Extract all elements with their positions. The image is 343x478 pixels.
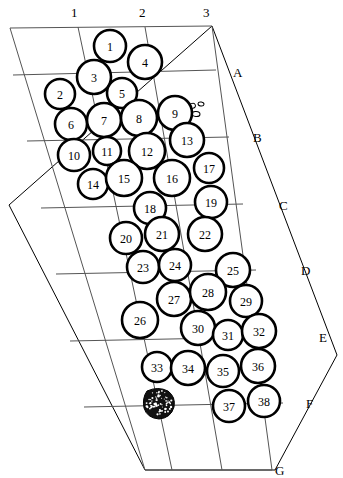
feature-8[interactable]: 8 — [121, 100, 157, 136]
feature-26[interactable]: 26 — [122, 302, 158, 338]
feature-number: 18 — [144, 202, 156, 216]
stipple-dot — [165, 400, 167, 402]
feature-4[interactable]: 4 — [128, 45, 162, 79]
feature-22[interactable]: 22 — [188, 217, 222, 251]
stipple-dot — [164, 398, 165, 399]
stipple-dot — [157, 394, 159, 396]
stipple-dot — [156, 400, 158, 402]
feature-number: 36 — [252, 360, 264, 374]
feature-16[interactable]: 16 — [154, 160, 190, 196]
feature-38[interactable]: 38 — [248, 385, 280, 417]
feature-27[interactable]: 27 — [157, 282, 191, 316]
stipple-dot — [150, 407, 152, 409]
feature-number: 15 — [118, 172, 130, 186]
feature-number: 8 — [136, 112, 142, 126]
row-label-B: B — [253, 131, 262, 144]
feature-35[interactable]: 35 — [207, 355, 239, 387]
feature-1[interactable]: 1 — [94, 30, 126, 62]
feature-number: 14 — [87, 178, 99, 192]
site-plan-diagram: 1234567891011121314151617181920212223242… — [0, 0, 343, 478]
feature-number: 38 — [258, 395, 270, 409]
row-label-E: E — [319, 331, 327, 344]
stipple-dot — [170, 399, 172, 401]
stipple-dot — [170, 406, 172, 408]
stipple-dot — [169, 408, 170, 409]
stipple-dot — [154, 406, 156, 408]
stipple-dot — [156, 392, 157, 393]
feature-28[interactable]: 28 — [190, 274, 226, 310]
stipple-dot — [152, 392, 153, 393]
stipple-dot — [166, 402, 168, 404]
feature-23[interactable]: 23 — [127, 251, 159, 283]
feature-3[interactable]: 3 — [77, 60, 111, 94]
feature-29[interactable]: 29 — [230, 285, 262, 317]
feature-number: 26 — [134, 314, 146, 328]
feature-number: 2 — [57, 88, 63, 102]
small-artifact-2 — [198, 102, 205, 107]
feature-number: 17 — [203, 162, 215, 176]
feature-number: 21 — [156, 228, 168, 242]
feature-number: 28 — [202, 286, 214, 300]
feature-number: 24 — [169, 259, 181, 273]
feature-34[interactable]: 34 — [171, 351, 205, 385]
stipple-dot — [151, 401, 152, 402]
feature-37[interactable]: 37 — [213, 390, 245, 422]
feature-number: 7 — [101, 114, 107, 128]
feature-number: 31 — [222, 329, 234, 343]
stipple-dot — [167, 411, 169, 413]
column-label-2: 2 — [139, 6, 146, 19]
feature-21[interactable]: 21 — [145, 217, 179, 251]
feature-number: 4 — [142, 56, 148, 70]
feature-33[interactable]: 33 — [142, 352, 172, 382]
feature-number: 29 — [240, 295, 252, 309]
stipple-dot — [165, 408, 167, 410]
stipple-dot — [155, 396, 156, 397]
feature-number: 6 — [68, 118, 74, 132]
stipple-dot — [160, 403, 162, 405]
stipple-dot — [157, 404, 159, 406]
row-label-D: D — [301, 264, 310, 277]
feature-circles: 1234567891011121314151617181920212223242… — [45, 30, 280, 422]
feature-32[interactable]: 32 — [242, 314, 276, 348]
stipple-dot — [166, 405, 168, 407]
feature-number: 35 — [217, 365, 229, 379]
row-label-A: A — [233, 66, 242, 79]
feature-number: 13 — [181, 134, 193, 148]
stipple-dot — [166, 397, 168, 399]
feature-10[interactable]: 10 — [58, 139, 90, 171]
feature-19[interactable]: 19 — [195, 186, 227, 218]
feature-2[interactable]: 2 — [45, 79, 75, 109]
stipple-dot — [150, 399, 151, 400]
feature-number: 23 — [137, 261, 149, 275]
feature-6[interactable]: 6 — [55, 108, 87, 140]
stipple-dot — [146, 402, 148, 404]
stipple-dot — [164, 411, 166, 413]
stipple-dot — [156, 398, 157, 399]
stipple-dot — [161, 398, 162, 399]
feature-7[interactable]: 7 — [87, 103, 121, 137]
stipple-dot — [159, 414, 160, 415]
stipple-dot — [167, 400, 168, 401]
feature-24[interactable]: 24 — [159, 249, 191, 281]
stipple-dot — [148, 399, 150, 401]
feature-36[interactable]: 36 — [241, 349, 275, 383]
feature-number: 11 — [101, 145, 113, 159]
feature-15[interactable]: 15 — [106, 160, 142, 196]
row-label-G: G — [275, 464, 284, 477]
stipple-dot — [149, 402, 151, 404]
feature-number: 27 — [168, 293, 180, 307]
feature-17[interactable]: 17 — [194, 153, 224, 183]
feature-number: 32 — [253, 325, 265, 339]
stipple-dot — [161, 390, 163, 392]
feature-number: 5 — [119, 87, 125, 101]
feature-30[interactable]: 30 — [181, 311, 215, 345]
column-label-3: 3 — [203, 6, 210, 19]
feature-14[interactable]: 14 — [78, 169, 108, 199]
feature-number: 19 — [205, 196, 217, 210]
row-label-F: F — [306, 397, 313, 410]
feature-number: 20 — [120, 232, 132, 246]
feature-number: 3 — [91, 71, 97, 85]
feature-31[interactable]: 31 — [213, 320, 243, 350]
feature-13[interactable]: 13 — [170, 123, 204, 157]
feature-20[interactable]: 20 — [110, 222, 142, 254]
